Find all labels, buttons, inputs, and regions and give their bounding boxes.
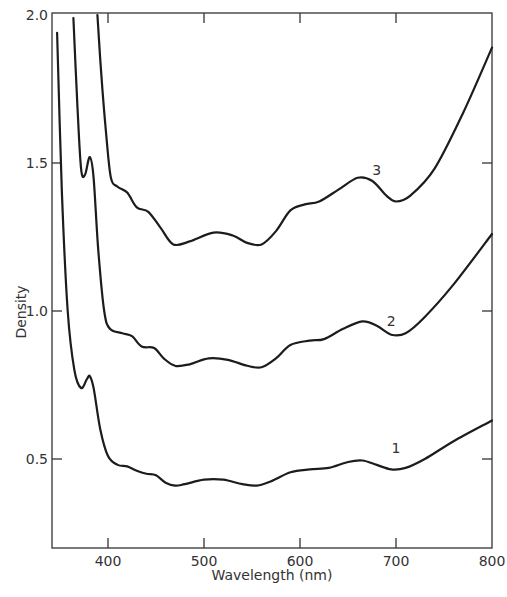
- x-tick-label: 800: [479, 553, 506, 569]
- y-tick-label: 0.5: [26, 451, 48, 467]
- plot-border: [52, 13, 492, 548]
- y-tick-label: 2.0: [26, 7, 48, 23]
- y-tick-label: 1.0: [26, 303, 48, 319]
- curve-labels: 123: [372, 162, 400, 456]
- y-tick-label: 1.5: [26, 155, 48, 171]
- curve-label-1: 1: [392, 440, 401, 456]
- density-spectrum-chart: 4005006007008000.51.01.52.0 123 Waveleng…: [0, 0, 507, 597]
- plot-frame: [52, 13, 492, 548]
- x-axis-label: Wavelength (nm): [212, 567, 333, 583]
- x-tick-label: 700: [383, 553, 410, 569]
- axis-ticks: 4005006007008000.51.01.52.0: [26, 7, 506, 569]
- curves: [57, 15, 492, 486]
- curve-3: [97, 15, 492, 245]
- curve-label-2: 2: [387, 313, 396, 329]
- curve-2: [73, 18, 492, 368]
- y-axis-label: Density: [13, 285, 29, 338]
- curve-1: [57, 33, 492, 486]
- x-tick-label: 400: [95, 553, 122, 569]
- curve-label-3: 3: [372, 162, 381, 178]
